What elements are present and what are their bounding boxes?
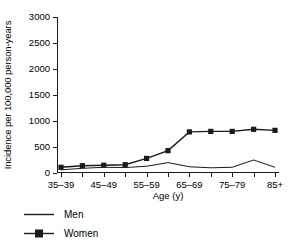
x-axis-tick <box>275 173 276 177</box>
legend-label-men: Men <box>64 208 83 221</box>
y-axis-tick-label: 1500 <box>4 90 50 100</box>
data-point-marker <box>251 127 256 132</box>
x-axis-tick-label: 45–49 <box>91 179 117 190</box>
y-axis-tick-label: 2000 <box>4 64 50 74</box>
data-point-marker <box>165 148 170 153</box>
data-point-marker <box>144 156 149 161</box>
x-axis-tick <box>168 173 169 177</box>
legend-label-women: Women <box>64 227 98 240</box>
data-point-marker <box>187 129 192 134</box>
y-axis-tick-label: 3000 <box>4 12 50 22</box>
x-axis-tick-label: 65–69 <box>176 179 202 190</box>
data-point-marker <box>80 163 85 168</box>
x-axis-title: Age (y) <box>57 190 279 202</box>
y-axis-tick-label: 2500 <box>4 38 50 48</box>
plot-area: 050010001500200025003000 35–3945–4955–59… <box>57 17 279 172</box>
x-axis-tick-label: 85+ <box>267 179 283 190</box>
legend-item-women: Women <box>22 224 172 243</box>
x-axis-tick-label: 75–79 <box>219 179 245 190</box>
x-axis-tick-label: 55–59 <box>133 179 159 190</box>
x-axis-tick <box>147 173 148 177</box>
x-axis-tick <box>232 173 233 177</box>
y-axis-tick-label: 0 <box>4 168 50 178</box>
data-point-marker <box>123 162 128 167</box>
incidence-by-age-chart: Incidence per 100,000 person-years 05001… <box>0 0 288 246</box>
data-point-marker <box>272 128 277 133</box>
series-layer <box>57 17 279 173</box>
legend-key-line-icon <box>22 205 56 224</box>
data-point-marker <box>58 165 63 170</box>
y-axis-tick <box>53 173 57 174</box>
legend-item-men: Men <box>22 205 172 224</box>
chart-legend: Men Women <box>22 205 172 243</box>
x-axis-tick <box>254 173 255 177</box>
x-axis-tick <box>189 173 190 177</box>
data-point-marker <box>101 163 106 168</box>
x-axis-tick <box>125 173 126 177</box>
data-point-marker <box>230 129 235 134</box>
x-axis-tick <box>211 173 212 177</box>
x-axis-tick <box>61 173 62 177</box>
y-axis-tick-label: 500 <box>4 142 50 152</box>
data-point-marker <box>208 129 213 134</box>
x-axis-tick-label: 35–39 <box>48 179 74 190</box>
legend-key-line-square-marker-icon <box>22 224 56 243</box>
x-axis-tick <box>82 173 83 177</box>
y-axis-tick-label: 1000 <box>4 116 50 126</box>
x-axis-tick <box>104 173 105 177</box>
